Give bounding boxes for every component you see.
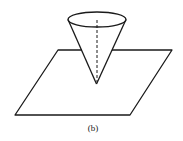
plane	[15, 50, 172, 115]
cone	[68, 12, 126, 84]
plane-outline	[15, 50, 172, 115]
cone-right-edge	[97, 20, 127, 85]
cone-left-edge	[68, 20, 97, 85]
figure-caption: (b)	[88, 123, 99, 133]
cone-plane-diagram: (b)	[0, 0, 183, 141]
cone-base-ellipse	[68, 12, 126, 27]
